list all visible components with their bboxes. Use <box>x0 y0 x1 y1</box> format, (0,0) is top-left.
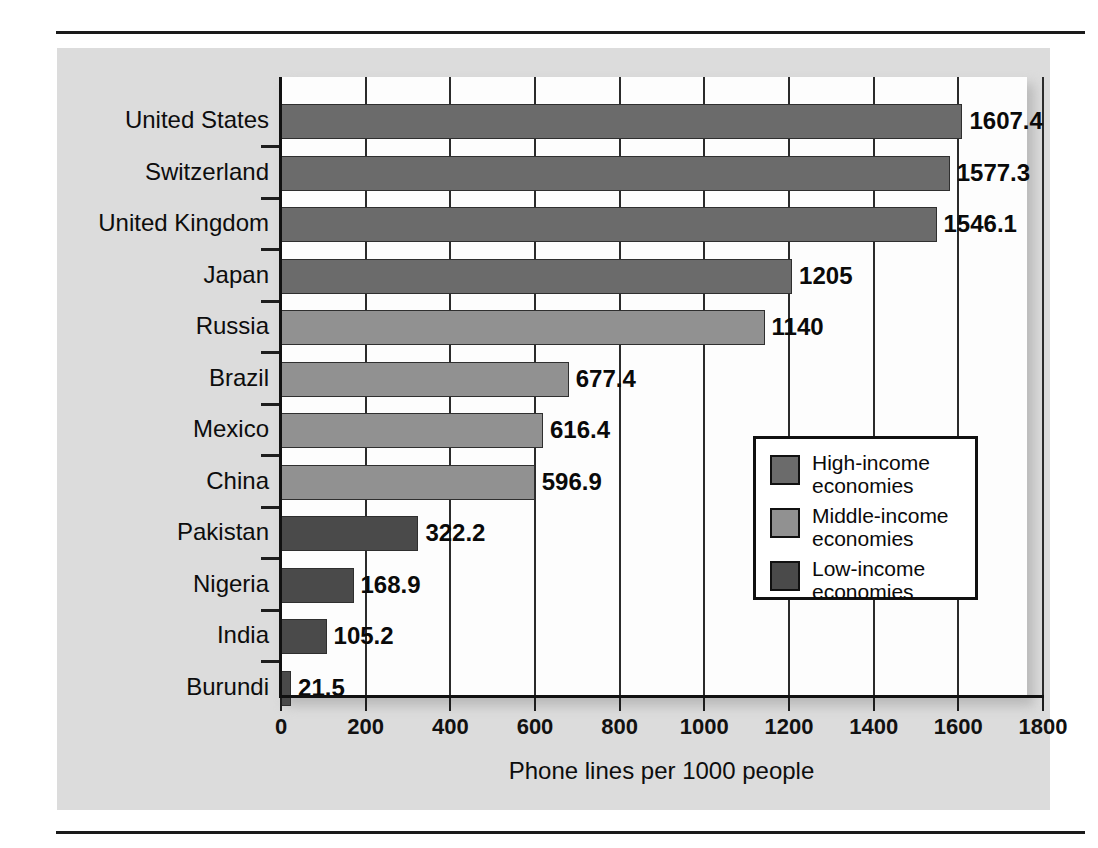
bar-value-china: 596.9 <box>542 468 602 496</box>
gridline-1800 <box>1042 77 1044 695</box>
y-tick-2 <box>261 248 280 251</box>
y-tick-6 <box>261 454 280 457</box>
x-tick-200 <box>365 698 367 711</box>
x-tick-label-200: 200 <box>347 714 384 740</box>
figure-page: 1607.41577.31546.112051140677.4616.4596.… <box>0 0 1098 848</box>
y-axis-line <box>279 77 282 698</box>
bar-value-united-states: 1607.4 <box>969 107 1042 135</box>
x-tick-1600 <box>957 698 959 711</box>
x-tick-0 <box>280 698 282 711</box>
x-tick-1800 <box>1042 698 1044 711</box>
bar-pakistan <box>281 516 418 551</box>
bar-value-pakistan: 322.2 <box>425 519 485 547</box>
bar-brazil <box>281 362 569 397</box>
category-label-united-kingdom: United Kingdom <box>19 209 269 237</box>
y-tick-3 <box>261 300 280 303</box>
x-tick-label-1400: 1400 <box>849 714 898 740</box>
bar-value-russia: 1140 <box>772 313 824 341</box>
bar-india <box>281 619 327 654</box>
legend-label-low: Low-income economies <box>812 557 925 603</box>
legend-item-middle: Middle-income economies <box>770 504 975 550</box>
x-axis-line <box>279 695 1044 698</box>
x-tick-600 <box>534 698 536 711</box>
x-tick-400 <box>449 698 451 711</box>
x-tick-label-1200: 1200 <box>765 714 814 740</box>
legend-label-high: High-income economies <box>812 451 930 497</box>
bar-japan <box>281 259 792 294</box>
category-label-brazil: Brazil <box>19 364 269 392</box>
legend-item-high: High-income economies <box>770 451 975 497</box>
x-tick-label-800: 800 <box>601 714 638 740</box>
category-label-russia: Russia <box>19 312 269 340</box>
bar-nigeria <box>281 568 354 603</box>
figure-top-rule <box>56 31 1085 34</box>
x-tick-label-1600: 1600 <box>934 714 983 740</box>
bar-value-nigeria: 168.9 <box>361 571 421 599</box>
x-tick-label-1800: 1800 <box>1019 714 1068 740</box>
y-tick-0 <box>261 145 280 148</box>
x-tick-label-400: 400 <box>432 714 469 740</box>
category-label-burundi: Burundi <box>19 673 269 701</box>
x-tick-1200 <box>788 698 790 711</box>
bar-mexico <box>281 413 543 448</box>
category-label-pakistan: Pakistan <box>19 518 269 546</box>
category-label-india: India <box>19 621 269 649</box>
category-label-mexico: Mexico <box>19 415 269 443</box>
category-label-united-states: United States <box>19 106 269 134</box>
legend-item-low: Low-income economies <box>770 557 975 603</box>
x-tick-800 <box>619 698 621 711</box>
chart-legend: High-income economiesMiddle-income econo… <box>753 436 978 600</box>
x-tick-label-1000: 1000 <box>680 714 729 740</box>
x-tick-label-0: 0 <box>275 714 287 740</box>
y-tick-5 <box>261 403 280 406</box>
bar-value-india: 105.2 <box>334 622 394 650</box>
category-label-nigeria: Nigeria <box>19 570 269 598</box>
bar-united-kingdom <box>281 207 937 242</box>
x-axis-title: Phone lines per 1000 people <box>279 757 1044 785</box>
category-label-japan: Japan <box>19 261 269 289</box>
y-tick-4 <box>261 351 280 354</box>
bar-value-brazil: 677.4 <box>576 365 636 393</box>
legend-label-middle: Middle-income economies <box>812 504 949 550</box>
y-tick-1 <box>261 197 280 200</box>
bar-united-states <box>281 104 962 139</box>
category-label-switzerland: Switzerland <box>19 158 269 186</box>
bar-value-mexico: 616.4 <box>550 416 610 444</box>
y-tick-8 <box>261 557 280 560</box>
legend-swatch-low <box>770 561 800 591</box>
bar-switzerland <box>281 156 950 191</box>
bar-china <box>281 465 535 500</box>
y-tick-10 <box>261 660 280 663</box>
bar-value-japan: 1205 <box>799 262 852 290</box>
figure-bottom-rule <box>56 831 1085 834</box>
x-tick-1000 <box>703 698 705 711</box>
x-tick-1400 <box>873 698 875 711</box>
bar-value-united-kingdom: 1546.1 <box>944 210 1017 238</box>
legend-swatch-high <box>770 455 800 485</box>
y-tick-9 <box>261 609 280 612</box>
category-label-china: China <box>19 467 269 495</box>
bar-burundi <box>281 671 291 706</box>
legend-swatch-middle <box>770 508 800 538</box>
bar-value-switzerland: 1577.3 <box>957 159 1030 187</box>
bar-russia <box>281 310 765 345</box>
y-tick-7 <box>261 506 280 509</box>
x-tick-label-600: 600 <box>517 714 554 740</box>
